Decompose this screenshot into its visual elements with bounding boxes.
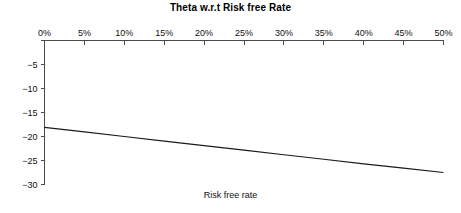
y-axis: −5−10−15−20−25−30 <box>22 41 44 191</box>
x-tick-label: 10% <box>115 28 133 38</box>
data-series-group <box>45 127 444 172</box>
x-axis-label: Risk free rate <box>0 190 461 200</box>
x-tick-group <box>45 41 444 45</box>
y-tick-label: −25 <box>22 156 37 166</box>
x-tick-label: 50% <box>434 28 452 38</box>
x-tick-label-group: 0%5%10%15%20%25%30%35%40%45%50% <box>38 28 453 38</box>
y-tick-label: −30 <box>22 180 37 190</box>
y-tick-label: −5 <box>27 60 37 70</box>
x-tick-label: 15% <box>155 28 173 38</box>
x-tick-label: 40% <box>355 28 373 38</box>
x-tick-label: 0% <box>38 28 51 38</box>
x-tick-label: 45% <box>395 28 413 38</box>
y-tick-group <box>41 41 45 185</box>
y-tick-label-group: −5−10−15−20−25−30 <box>22 60 37 190</box>
y-tick-label: −20 <box>22 132 37 142</box>
data-line-theta <box>45 127 444 172</box>
x-tick-label: 35% <box>315 28 333 38</box>
plot-area: 0%5%10%15%20%25%30%35%40%45%50% −5−10−15… <box>0 0 461 213</box>
x-tick-label: 20% <box>195 28 213 38</box>
x-tick-label: 25% <box>235 28 253 38</box>
chart-container: Theta w.r.t Risk free Rate 0%5%10%15%20%… <box>0 0 461 213</box>
y-tick-label: −15 <box>22 108 37 118</box>
x-tick-label: 5% <box>78 28 91 38</box>
y-tick-label: −10 <box>22 84 37 94</box>
x-tick-label: 30% <box>275 28 293 38</box>
x-axis: 0%5%10%15%20%25%30%35%40%45%50% <box>38 28 453 45</box>
